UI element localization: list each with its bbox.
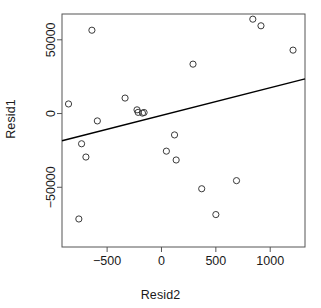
scatter-plot-figure: −50005001000 −50000050000 Resid2 Resid1 [0,0,321,308]
x-tick-label: 500 [205,254,226,268]
x-tick-label: 0 [158,254,165,268]
x-tick-label: 1000 [256,254,284,268]
y-axis-label: Resid1 [4,84,18,154]
data-point [250,16,256,22]
data-points [65,16,296,222]
data-point [76,216,82,222]
regression-line [62,79,305,141]
data-point [199,186,205,192]
data-point [89,27,95,33]
y-tick-label: 0 [44,110,58,117]
data-point [290,47,296,53]
data-point [78,141,84,147]
data-point [83,154,89,160]
plot-border [62,14,305,247]
data-point [65,101,71,107]
data-point [94,118,100,124]
data-point [163,148,169,154]
data-point [213,211,219,217]
data-point [173,157,179,163]
data-point [258,23,264,29]
plot-frame [62,14,305,247]
x-tick-label: −500 [93,254,121,268]
data-point [122,95,128,101]
data-point [233,178,239,184]
y-tick-label: 50000 [44,22,58,57]
data-point [171,132,177,138]
x-axis-label: Resid2 [0,288,321,302]
y-axis: −50000050000 [44,22,62,208]
x-axis: −50005001000 [93,247,284,268]
trend-line [62,79,305,141]
plot-canvas: −50005001000 −50000050000 [0,0,321,308]
data-point [190,61,196,67]
y-tick-label: −50000 [44,166,58,208]
